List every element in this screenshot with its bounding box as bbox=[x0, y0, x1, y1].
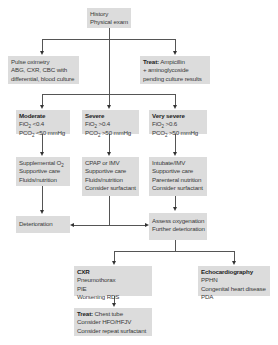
connector bbox=[109, 39, 110, 94]
node-text: Pneumothorax bbox=[77, 276, 149, 284]
connector bbox=[74, 225, 145, 226]
node-title: Moderate bbox=[19, 112, 67, 120]
node-history: History Physical exam bbox=[87, 8, 131, 28]
fio2-value: <0.4 bbox=[31, 120, 44, 127]
node-text: Parenteral nutrition bbox=[152, 176, 204, 184]
pco2-label: PCO bbox=[152, 129, 165, 136]
treat-label: Treat: bbox=[143, 58, 159, 65]
node-text: Supportive care bbox=[152, 167, 204, 175]
node-text: Chest tube bbox=[95, 310, 123, 317]
node-text: Consider HFO/HFJV bbox=[77, 318, 149, 326]
node-very-severe: Very severe FiO2 >0.6 PCO2 >50 mmHg bbox=[149, 110, 207, 134]
node-assess-oxygenation: Assess oxygenation Further deterioration bbox=[149, 213, 207, 240]
node-text: Worsening RDS bbox=[77, 293, 149, 301]
node-text: + aminoglycoside bbox=[143, 66, 207, 74]
node-text: Treat: Chest tube bbox=[77, 310, 149, 318]
node-text: Deterioration bbox=[19, 220, 67, 228]
node-echocardiography: Echocardiography PPHN Congenital heart d… bbox=[198, 266, 270, 296]
node-title: Very severe bbox=[152, 112, 204, 120]
arrow-down-icon bbox=[173, 152, 177, 156]
node-text: Fluids/nutrition bbox=[85, 176, 136, 184]
arrow-down-icon bbox=[112, 261, 116, 265]
connector bbox=[175, 240, 176, 251]
node-text: FiO2 >0.4 bbox=[85, 120, 136, 128]
pco2-value: >50 mmHg bbox=[167, 129, 198, 136]
node-text: FiO2 >0.6 bbox=[152, 120, 204, 128]
node-very-severe-treatment: Intubate/IMV Supportive care Parenteral … bbox=[149, 157, 207, 196]
arrow-down-icon bbox=[40, 105, 44, 109]
node-text: Pulse oximetry bbox=[11, 58, 76, 66]
pco2-value: >50 mmHg bbox=[100, 129, 131, 136]
node-severe: Severe FiO2 >0.4 PCO2 >50 mmHg bbox=[82, 110, 139, 134]
pco2-value: <50 mmHg bbox=[34, 129, 65, 136]
node-treat-antibiotics: Treat: Ampicillin + aminoglycoside pendi… bbox=[140, 56, 210, 84]
node-text: Supplemental O2 bbox=[19, 159, 67, 167]
node-text: PCO2 >50 mmHg bbox=[85, 129, 136, 137]
fio2-label: FiO bbox=[85, 120, 95, 127]
node-title: Echocardiography bbox=[201, 268, 267, 276]
connector bbox=[109, 28, 110, 39]
node-text: Intubate/IMV bbox=[152, 159, 204, 167]
node-text: Consider surfactant bbox=[152, 184, 204, 192]
pco2-label: PCO bbox=[85, 129, 98, 136]
node-text: CPAP or IMV bbox=[85, 159, 136, 167]
node-treat-chest-tube: Treat: Chest tube Consider HFO/HFJV Cons… bbox=[74, 308, 152, 336]
node-text: Treat: Ampicillin bbox=[143, 58, 207, 66]
treat-label: Treat: bbox=[77, 310, 93, 317]
arrow-left-icon bbox=[70, 223, 74, 227]
arrow-down-icon bbox=[40, 51, 44, 55]
arrow-down-icon bbox=[107, 152, 111, 156]
node-title: Severe bbox=[85, 112, 136, 120]
node-text: Assess oxygenation bbox=[152, 217, 204, 225]
node-text: Consider surfactant bbox=[85, 184, 136, 192]
fio2-value: >0.6 bbox=[164, 120, 177, 127]
connector bbox=[42, 186, 43, 211]
node-text: Congenital heart disease bbox=[201, 285, 267, 293]
node-text: Ampicillin bbox=[160, 58, 185, 65]
arrow-down-icon bbox=[173, 207, 177, 211]
node-text: Further deterioration bbox=[152, 225, 204, 233]
arrow-down-icon bbox=[107, 105, 111, 109]
node-title: CXR bbox=[77, 268, 149, 276]
arrow-down-icon bbox=[40, 210, 44, 214]
node-text: PCO2 >50 mmHg bbox=[152, 129, 204, 137]
arrow-down-icon bbox=[40, 152, 44, 156]
arrow-down-icon bbox=[173, 51, 177, 55]
fio2-value: >0.4 bbox=[97, 120, 110, 127]
node-text: PCO2 <50 mmHg bbox=[19, 129, 67, 137]
connector bbox=[114, 251, 235, 252]
fio2-label: FiO bbox=[152, 120, 162, 127]
node-text: PPHN bbox=[201, 276, 267, 284]
node-text: pending culture results bbox=[143, 75, 207, 83]
node-text: PIE bbox=[77, 285, 149, 293]
node-moderate-treatment: Supplemental O2 Supportive care Fluids/n… bbox=[16, 157, 70, 186]
node-text: Fluids/nutrition bbox=[19, 176, 67, 184]
node-text: Consider repeat surfactant bbox=[77, 327, 149, 335]
node-text: differential, blood culture bbox=[11, 75, 76, 83]
node-text: Physical exam bbox=[90, 18, 128, 26]
pco2-label: PCO bbox=[19, 129, 32, 136]
node-text: Supplemental O bbox=[19, 159, 61, 166]
arrow-down-icon bbox=[232, 261, 236, 265]
node-text: Supportive care bbox=[85, 167, 136, 175]
node-cxr: CXR Pneumothorax PIE Worsening RDS bbox=[74, 266, 152, 296]
node-tests: Pulse oximetry ABG, CXR, CBC with differ… bbox=[8, 56, 79, 84]
arrow-down-icon bbox=[173, 105, 177, 109]
connector bbox=[109, 196, 110, 225]
node-text: History bbox=[90, 10, 128, 18]
node-severe-treatment: CPAP or IMV Supportive care Fluids/nutri… bbox=[82, 157, 139, 196]
fio2-label: FiO bbox=[19, 120, 29, 127]
node-text: FiO2 <0.4 bbox=[19, 120, 67, 128]
subscript: 2 bbox=[61, 163, 63, 168]
node-text: ABG, CXR, CBC with bbox=[11, 66, 76, 74]
node-text: Supportive care bbox=[19, 167, 67, 175]
node-moderate: Moderate FiO2 <0.4 PCO2 <50 mmHg bbox=[16, 110, 70, 134]
node-text: PDA bbox=[201, 293, 267, 301]
node-deterioration: Deterioration bbox=[16, 216, 70, 233]
arrow-down-icon bbox=[112, 303, 116, 307]
